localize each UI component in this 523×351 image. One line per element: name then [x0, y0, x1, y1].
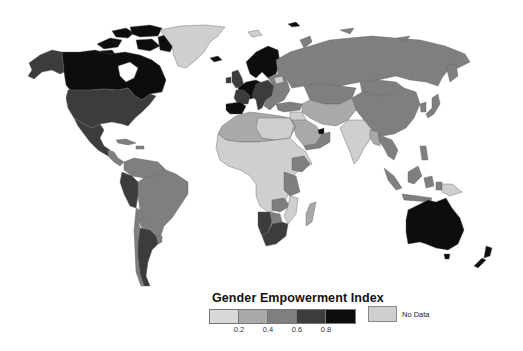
- region-turkey: [276, 102, 302, 112]
- legend-tick-0-6: 0.6: [292, 325, 302, 334]
- region-spain: [226, 102, 246, 114]
- legend-bin-2: [268, 310, 297, 323]
- region-peru-ecuador: [120, 172, 138, 208]
- region-franz-josef: [288, 22, 300, 27]
- region-uae: [318, 128, 324, 134]
- region-svalbard: [248, 30, 262, 37]
- legend-bin-1: [239, 310, 268, 323]
- region-west-papua: [436, 182, 442, 190]
- legend-bin-3: [297, 310, 326, 323]
- region-mozambique: [284, 196, 298, 224]
- region-new-zealand: [474, 246, 492, 268]
- region-tanzania-uganda: [284, 172, 300, 196]
- region-iceland: [210, 56, 222, 62]
- legend-color-scale: [209, 309, 356, 324]
- region-korea: [420, 102, 426, 112]
- legend-tick-0-8: 0.8: [321, 325, 331, 334]
- legend-bin-4: [326, 310, 355, 323]
- region-madagascar: [306, 202, 316, 226]
- region-tasmania: [444, 254, 450, 259]
- region-central-america: [108, 150, 124, 166]
- legend-bin-0: [210, 310, 239, 323]
- region-kamchatka: [446, 64, 458, 82]
- legend-tick-0-2: 0.2: [234, 325, 244, 334]
- legend-no-data-swatch: [368, 306, 397, 322]
- region-nordic: [246, 46, 280, 78]
- region-libya-egypt: [256, 118, 294, 140]
- world-choropleth-map: [0, 0, 523, 290]
- region-papua-new-guinea: [440, 184, 462, 196]
- region-alaska: [28, 50, 64, 79]
- legend-tick-0-4: 0.4: [263, 325, 273, 334]
- legend-title: Gender Empowerment Index: [212, 291, 384, 305]
- region-caribbean: [116, 139, 144, 149]
- region-australia: [406, 198, 464, 250]
- region-india: [340, 120, 372, 164]
- region-japan: [426, 94, 440, 118]
- legend-no-data-label: No Data: [402, 310, 430, 319]
